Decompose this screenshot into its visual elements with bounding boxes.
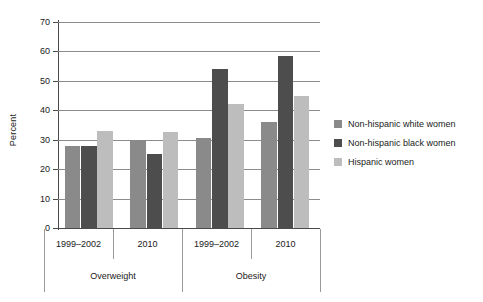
y-tick-label-50: 50 (40, 76, 50, 85)
bar (147, 154, 163, 228)
axis-divider (182, 229, 183, 259)
axis-divider (182, 259, 183, 292)
gridline-60 (58, 51, 320, 52)
y-tick-label-20: 20 (40, 165, 50, 174)
y-tick-50 (53, 81, 58, 82)
bar (294, 96, 310, 228)
legend-item: Non-hispanic black women (334, 133, 480, 152)
y-tick-label-70: 70 (40, 18, 50, 27)
category-axis: 1999–200220101999–20022010OverweightObes… (44, 229, 320, 292)
bar (97, 131, 113, 228)
group-label: Obesity (182, 259, 320, 292)
legend-swatch-black-women (334, 139, 342, 147)
bar (163, 132, 179, 228)
bar-chart: Percent 010203040506070 1999–20022010199… (0, 0, 483, 302)
y-tick-40 (53, 110, 58, 111)
y-axis-title-text: Percent (8, 95, 18, 165)
axis-divider (44, 229, 45, 259)
bar (212, 69, 228, 228)
group-label: Overweight (44, 259, 182, 292)
legend-label: Non-hispanic black women (348, 138, 456, 148)
gridline-70 (58, 22, 320, 23)
chart-legend: Non-hispanic white womenNon-hispanic bla… (334, 114, 480, 171)
axis-divider (320, 229, 321, 259)
y-tick-10 (53, 199, 58, 200)
period-label: 1999–2002 (44, 229, 113, 259)
bar (196, 138, 212, 228)
y-tick-30 (53, 140, 58, 141)
axis-divider (320, 259, 321, 292)
bar (278, 56, 294, 228)
legend-item: Non-hispanic white women (334, 114, 480, 133)
y-tick-20 (53, 169, 58, 170)
y-tick-label-30: 30 (40, 135, 50, 144)
bar (261, 122, 277, 228)
bar (65, 146, 81, 228)
plot-area: 010203040506070 (58, 22, 320, 228)
y-tick-label-10: 10 (40, 194, 50, 203)
axis-divider (44, 259, 45, 292)
period-label: 1999–2002 (182, 229, 251, 259)
legend-item: Hispanic women (334, 152, 480, 171)
axis-divider (113, 229, 114, 259)
y-axis-title: Percent (8, 25, 18, 95)
legend-swatch-white-women (334, 120, 342, 128)
period-label: 2010 (251, 229, 320, 259)
legend-swatch-hispanic-women (334, 158, 342, 166)
bar (81, 146, 97, 228)
y-tick-60 (53, 51, 58, 52)
y-tick-label-60: 60 (40, 47, 50, 56)
legend-label: Non-hispanic white women (348, 119, 456, 129)
axis-divider (251, 229, 252, 259)
bar (130, 140, 146, 228)
y-tick-70 (53, 22, 58, 23)
legend-label: Hispanic women (348, 157, 414, 167)
y-tick-label-40: 40 (40, 106, 50, 115)
period-label: 2010 (113, 229, 182, 259)
bar (228, 104, 244, 228)
